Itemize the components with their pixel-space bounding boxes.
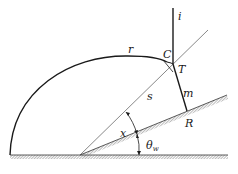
arc-r — [10, 56, 167, 155]
diagram-canvas: r C T i s m R x θw — [0, 0, 238, 174]
label-x: x — [120, 127, 127, 140]
arrowhead-x-top — [126, 112, 130, 116]
label-C: C — [163, 48, 172, 61]
label-R: R — [184, 117, 193, 130]
label-theta-subscript: w — [153, 145, 159, 153]
horizontal-wall — [10, 155, 228, 159]
label-theta-w: θw — [146, 139, 159, 153]
label-s: s — [147, 90, 153, 103]
arrowhead-theta-bottom — [137, 151, 141, 155]
label-r: r — [128, 43, 134, 56]
label-i: i — [178, 10, 182, 23]
label-m: m — [183, 87, 193, 100]
corner-arc-outer — [167, 62, 173, 64]
geometry-diagram: r C T i s m R x θw — [0, 0, 238, 174]
label-T: T — [178, 63, 187, 76]
